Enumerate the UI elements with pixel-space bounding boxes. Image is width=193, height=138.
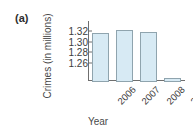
figure-panel: (a) Crimes (in millions) 1.321.301.281.2… — [0, 0, 193, 138]
x-axis-tick-label: 2007 — [140, 84, 163, 107]
x-axis-title: Year — [88, 116, 108, 127]
y-axis-tick-label: 1.26 — [56, 57, 88, 68]
x-axis-tick-label: 2006 — [115, 84, 138, 107]
bar-2009 — [164, 78, 181, 82]
y-axis-tick-label: 1.30 — [56, 36, 88, 47]
part-label: (a) — [15, 12, 28, 24]
x-axis-tick-label: 2008 — [164, 84, 187, 107]
x-axis-tick-label: 2009 — [188, 84, 193, 107]
y-axis-tick-label: 1.32 — [56, 25, 88, 36]
bar-2006 — [92, 33, 109, 82]
y-axis-tick-label: 1.28 — [56, 47, 88, 58]
y-axis-title: Crimes (in millions) — [42, 13, 53, 98]
bar-2008 — [140, 32, 157, 82]
y-axis-tick-mark — [88, 30, 92, 31]
plot-area: 1.321.301.281.26 2006200720082009 — [56, 22, 186, 82]
bar-2007 — [116, 30, 133, 82]
y-axis-title-container: Crimes (in millions) — [39, 13, 55, 99]
